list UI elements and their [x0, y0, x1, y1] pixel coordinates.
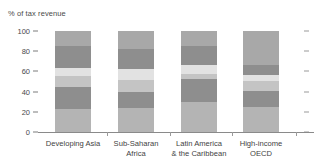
stacked-bar[interactable]	[243, 31, 279, 132]
stacked-bar[interactable]	[55, 31, 91, 132]
y-axis-right-tick-mark	[304, 111, 309, 112]
bar-segment[interactable]	[243, 91, 279, 107]
y-axis-tick-label: 20	[4, 107, 30, 116]
bar-column	[118, 31, 154, 132]
y-axis-title: % of tax revenue	[8, 9, 66, 18]
bar-segment[interactable]	[181, 65, 217, 74]
x-axis-category-label: High-incomeOECD	[209, 139, 313, 158]
y-axis-tick-mark	[33, 111, 38, 112]
bar-segment[interactable]	[243, 65, 279, 75]
y-axis-right-tick-mark	[304, 51, 309, 52]
tax-revenue-stacked-bar-chart: % of tax revenue 020406080100 Developing…	[0, 0, 324, 168]
bar-segment[interactable]	[118, 31, 154, 49]
bar-segment[interactable]	[243, 31, 279, 65]
bar-segment[interactable]	[118, 92, 154, 108]
bar-segment[interactable]	[118, 69, 154, 79]
stacked-bar[interactable]	[181, 31, 217, 132]
y-axis-tick-mark	[33, 91, 38, 92]
bar-segment[interactable]	[55, 46, 91, 68]
bar-column	[181, 31, 217, 132]
y-axis-tick-label: 100	[4, 27, 30, 36]
bar-segment[interactable]	[243, 81, 279, 91]
bar-segment[interactable]	[55, 68, 91, 76]
category-label-line: High-income	[209, 139, 313, 149]
category-label-line: OECD	[209, 149, 313, 159]
y-axis-right-tick-mark	[304, 71, 309, 72]
y-axis-tick-mark	[33, 71, 38, 72]
bar-segment[interactable]	[181, 79, 217, 101]
bar-segment[interactable]	[181, 31, 217, 46]
y-axis-right-tick-mark	[304, 91, 309, 92]
y-axis-tick-mark	[33, 51, 38, 52]
bar-segment[interactable]	[181, 102, 217, 132]
bar-column	[243, 31, 279, 132]
y-axis-tick-label: 60	[4, 67, 30, 76]
bar-segment[interactable]	[243, 107, 279, 132]
x-axis-tick-mark	[232, 132, 233, 136]
x-axis-tick-mark	[296, 132, 297, 136]
y-axis-tick-label: 40	[4, 87, 30, 96]
bar-segment[interactable]	[55, 109, 91, 132]
y-axis-tick-mark	[33, 31, 38, 32]
y-axis-tick-label: 80	[4, 47, 30, 56]
bar-segment[interactable]	[118, 108, 154, 132]
bar-segment[interactable]	[55, 87, 91, 109]
bar-segment[interactable]	[55, 76, 91, 86]
bar-column	[55, 31, 91, 132]
x-axis-tick-mark	[170, 132, 171, 136]
x-axis-baseline	[38, 132, 314, 133]
stacked-bar[interactable]	[118, 31, 154, 132]
bar-segment[interactable]	[181, 46, 217, 65]
bar-segment[interactable]	[118, 49, 154, 69]
x-axis-tick-mark	[107, 132, 108, 136]
bar-segment[interactable]	[118, 80, 154, 92]
bar-segment[interactable]	[55, 31, 91, 46]
y-axis-right-tick-mark	[304, 31, 309, 32]
y-axis-tick-label: 0	[4, 128, 30, 137]
